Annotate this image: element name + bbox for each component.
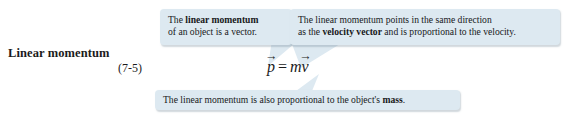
linear-momentum-equation-figure: Linear momentum (7-5) →p=m→v The linear … xyxy=(0,0,585,115)
equals-sign: = xyxy=(275,58,290,75)
callout-mass-text-bold: mass xyxy=(382,94,402,105)
callout-direction-line2-suffix: and is proportional to the velocity. xyxy=(382,26,516,37)
momentum-symbol-p: p xyxy=(267,58,275,75)
momentum-vector-symbol: →p xyxy=(267,58,275,76)
callout-direction-line2-prefix: as the xyxy=(298,26,323,37)
callout-mass-text-suffix: . xyxy=(403,94,405,105)
mass-symbol-m: m xyxy=(290,58,302,75)
callout-direction-line2-bold: velocity vector xyxy=(323,26,382,37)
callout-vector-line1-prefix: The xyxy=(168,14,185,25)
callout-mass-text-prefix: The linear momentum is also proportional… xyxy=(163,94,382,105)
callout-linear-momentum-is-vector: The linear momentum of an object is a ve… xyxy=(160,9,292,45)
callout-vector-line1-bold: linear momentum xyxy=(185,14,258,25)
velocity-vector-symbol: →v xyxy=(302,58,309,76)
callout-momentum-proportional-to-mass: The linear momentum is also proportional… xyxy=(155,90,460,110)
momentum-equation: →p=m→v xyxy=(267,58,309,76)
callout-momentum-direction: The linear momentum points in the same d… xyxy=(290,9,560,45)
velocity-symbol-v: v xyxy=(302,58,309,75)
tail-mass-bubble xyxy=(296,74,319,91)
callout-vector-line2: of an object is a vector. xyxy=(168,26,257,37)
equation-number: (7-5) xyxy=(8,61,148,76)
equation-label: Linear momentum (7-5) xyxy=(8,46,148,76)
callout-direction-line1: The linear momentum points in the same d… xyxy=(298,14,492,25)
equation-label-title: Linear momentum xyxy=(8,46,148,61)
